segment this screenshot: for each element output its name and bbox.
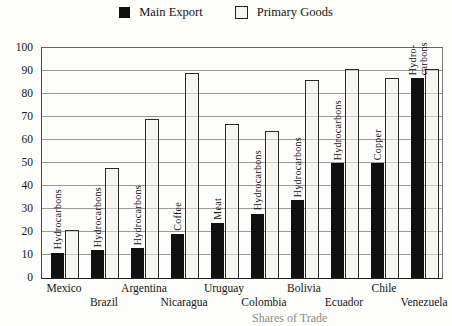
bar-primary-goods (385, 78, 399, 278)
caption-fragment: Shares of Trade (252, 311, 327, 326)
bar-primary-goods (185, 73, 199, 278)
bar-main-export (131, 248, 144, 278)
y-tick-label: 40 (0, 179, 33, 191)
y-tick-label: 90 (0, 64, 33, 76)
bar-commodity-label: Hydrocarbons (292, 137, 303, 197)
x-category-label: Chile (329, 282, 439, 294)
gridline (42, 93, 442, 94)
bar-commodity-label: Hydrocarbons (332, 100, 343, 160)
bar-main-export (51, 253, 64, 278)
x-category-label: Venezuela (369, 296, 452, 308)
bar-primary-goods (145, 119, 159, 278)
bar-primary-goods (305, 80, 319, 278)
legend-item-primary-goods: Primary Goods (235, 5, 333, 20)
bar-main-export (371, 163, 384, 278)
bar-main-export (411, 78, 424, 278)
bar-primary-goods (345, 69, 359, 278)
y-tick-label: 10 (0, 248, 33, 260)
primary-goods-swatch-icon (235, 6, 248, 19)
y-tick-label: 30 (0, 202, 33, 214)
y-tick-label: 50 (0, 156, 33, 168)
bar-main-export (291, 200, 304, 278)
gridline (42, 116, 442, 117)
bar-commodity-label: Meat (212, 198, 223, 220)
y-tick-label: 100 (0, 41, 33, 53)
bar-primary-goods (265, 131, 279, 278)
legend-label-primary-goods: Primary Goods (257, 5, 333, 20)
bar-main-export (331, 163, 344, 278)
bar-primary-goods (425, 69, 439, 278)
bar-commodity-label: Hydro- carbons (407, 42, 429, 75)
bar-commodity-label: Copper (372, 129, 383, 160)
chart-area: HydrocarbonsHydrocarbonsHydrocarbonsCoff… (41, 47, 443, 279)
main-export-swatch-icon (119, 7, 130, 18)
bar-commodity-label: Coffee (172, 202, 183, 231)
y-tick-label: 20 (0, 225, 33, 237)
y-tick-label: 70 (0, 110, 33, 122)
bar-commodity-label: Hydrocarbons (252, 150, 263, 210)
y-axis: 0102030405060708090100 (0, 47, 37, 277)
gridline (42, 70, 442, 71)
bar-primary-goods (105, 168, 119, 278)
y-tick-label: 80 (0, 87, 33, 99)
bar-main-export (91, 250, 104, 278)
bar-commodity-label: Hydrocarbons (132, 185, 143, 245)
bar-main-export (211, 223, 224, 278)
legend-label-main-export: Main Export (139, 5, 203, 20)
bar-primary-goods (65, 230, 79, 278)
x-axis: MexicoBrazilArgentinaNicaraguaUruguayCol… (41, 278, 441, 312)
y-tick-label: 60 (0, 133, 33, 145)
bar-commodity-label: Hydrocarbons (52, 189, 63, 249)
bar-main-export (171, 234, 184, 278)
bar-main-export (251, 214, 264, 278)
chart-legend: Main Export Primary Goods (0, 5, 452, 20)
bar-commodity-label: Hydrocarbons (92, 187, 103, 247)
legend-item-main-export: Main Export (119, 5, 203, 20)
bar-primary-goods (225, 124, 239, 278)
